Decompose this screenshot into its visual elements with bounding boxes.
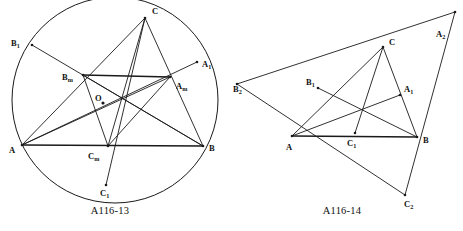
point-label-a: A [286, 142, 293, 152]
circumcenter-dot [101, 101, 104, 104]
cevian-A-A1 [292, 95, 400, 136]
point-label-c: C [389, 37, 395, 47]
figure2-heavy-segments [292, 136, 417, 137]
point-label-c: C [152, 6, 158, 16]
figure-caption-a116-13: A116-13 [91, 205, 129, 216]
vertex-dot-c2 [404, 194, 407, 197]
figure1-vertex-dots [21, 17, 205, 187]
point-label-am: Am [176, 81, 188, 92]
vertex-dot-b [202, 145, 205, 148]
figure2-vertex-dots [236, 11, 457, 197]
geometry-figure-a116-13: ABCAmBmCmA1B1C1O A116-13 ABCA1B1C1A2B2C2… [0, 0, 463, 231]
figure-sheet: ABCAmBmCmA1B1C1O A116-13 ABCA1B1C1A2B2C2… [0, 0, 463, 231]
cevian-C-C1 [355, 47, 383, 133]
point-label-bm: Bm [62, 72, 74, 83]
side-BC [145, 18, 203, 146]
vertex-dot-bm [82, 74, 85, 77]
chord-C-C1 [106, 18, 145, 185]
side-AB [22, 145, 203, 146]
chord-B-B1 [32, 45, 203, 146]
point-label-c2: C2 [404, 199, 413, 210]
side-AC [292, 47, 383, 136]
vertex-dot-am [169, 76, 172, 79]
vertex-dot-c [382, 46, 385, 49]
point-label-b1: B1 [306, 77, 315, 88]
vertex-dot-a1 [399, 94, 402, 97]
vertex-dot-c1 [354, 132, 357, 135]
outer-line-B2-C2 [237, 84, 405, 195]
point-label-b1: B1 [11, 38, 20, 49]
vertex-dot-a [291, 135, 294, 138]
point-label-c1: C1 [100, 188, 109, 199]
vertex-dot-cm [107, 145, 110, 148]
point-label-o: O [95, 93, 102, 103]
side-AB [292, 136, 417, 137]
vertex-dot-c1 [105, 184, 108, 187]
vertex-dot-c [144, 17, 147, 20]
figure-caption-a116-14: A116-14 [323, 205, 362, 216]
point-label-b: B [209, 143, 215, 153]
vertex-dot-a2 [454, 11, 457, 14]
figure2-point-labels: ABCA1B1C1A2B2C2 [233, 29, 445, 210]
outer-line-A2-C2 [405, 12, 455, 195]
outer-line-B2-A2 [237, 12, 455, 84]
point-label-a: A [9, 145, 16, 155]
segment-Cm-Bm [83, 75, 108, 146]
point-label-a2: A2 [436, 29, 445, 40]
point-label-c1: C1 [347, 138, 356, 149]
chord-A-A1 [22, 62, 197, 145]
segment-Cm-Am [108, 77, 170, 146]
vertex-dot-b1 [317, 87, 320, 90]
vertex-dot-a [21, 144, 24, 147]
vertex-dot-a1 [196, 61, 199, 64]
vertex-dot-b1 [31, 44, 34, 47]
point-label-cm: Cm [88, 151, 100, 162]
point-label-b: B [423, 135, 429, 145]
vertex-dot-b [416, 136, 419, 139]
midline-Bm-Am [83, 75, 170, 77]
point-label-b2: B2 [233, 84, 242, 95]
circumcircle [12, 0, 218, 203]
figure2-segments [237, 12, 455, 195]
point-label-a1: A1 [404, 84, 413, 95]
figure1-segments [22, 18, 203, 185]
